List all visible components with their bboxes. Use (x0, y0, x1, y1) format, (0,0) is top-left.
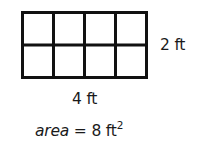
area-variable: area (35, 122, 69, 140)
area-unit: ft (106, 122, 117, 140)
width-label: 4 ft (72, 92, 97, 108)
grid-lines (21, 11, 148, 79)
area-formula: area = 8 ft2 (35, 124, 123, 140)
equals-sign: = (74, 122, 87, 140)
rectangle-grid-2x4 (21, 11, 148, 79)
area-value: 8 (91, 122, 101, 140)
height-label: 2 ft (160, 38, 185, 54)
unit-exponent: 2 (117, 119, 123, 131)
